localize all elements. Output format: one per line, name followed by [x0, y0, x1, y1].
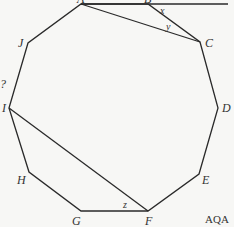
angle-label-z: z [122, 199, 127, 210]
vertex-label-a: A [76, 0, 85, 6]
angle-label-y: y [165, 21, 171, 32]
diagonal-if [9, 108, 148, 211]
vertex-label-b: B [144, 0, 152, 6]
stray-mark: ? [0, 77, 6, 91]
vertex-label-g: G [72, 214, 81, 227]
vertex-label-e: E [201, 173, 210, 187]
vertex-label-d: D [221, 101, 231, 115]
vertex-label-i: I [1, 101, 7, 115]
decagon-outline [9, 4, 218, 211]
angle-labels: xyz [122, 5, 171, 210]
vertex-labels: ABCDEFGHIJ [1, 0, 231, 227]
vertex-label-j: J [18, 36, 24, 50]
source-label: AQA [205, 213, 229, 225]
vertex-label-c: C [205, 36, 214, 50]
decagon-diagram: ABCDEFGHIJ xyz ? AQA [0, 0, 234, 227]
vertex-label-f: F [144, 214, 153, 227]
diagonals [9, 4, 200, 211]
angle-label-x: x [159, 5, 165, 16]
diagonal-ac [81, 4, 200, 42]
vertex-label-h: H [16, 173, 27, 187]
